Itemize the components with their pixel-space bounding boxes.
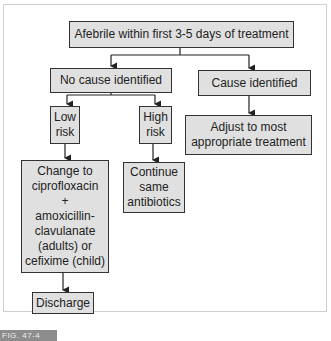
- high-risk-label: High risk: [143, 110, 168, 140]
- no-cause-label: No cause identified: [60, 73, 162, 88]
- cause-label: Cause identified: [211, 76, 297, 91]
- continue-label: Continue same antibiotics: [127, 165, 180, 210]
- figure-caption: FIG. 47-4: [0, 330, 57, 341]
- cause-box: Cause identified: [198, 70, 311, 96]
- adjust-label: Adjust to most appropriate treatment: [191, 120, 306, 150]
- discharge-label: Discharge: [36, 296, 90, 311]
- low-risk-label: Low risk: [54, 110, 76, 140]
- low-risk-box: Low risk: [50, 106, 80, 144]
- root-label: Afebrile within first 3-5 days of treatm…: [74, 27, 288, 42]
- discharge-box: Discharge: [32, 292, 94, 314]
- continue-box: Continue same antibiotics: [123, 162, 185, 213]
- no-cause-box: No cause identified: [50, 68, 172, 93]
- adjust-box: Adjust to most appropriate treatment: [185, 115, 312, 155]
- high-risk-box: High risk: [139, 106, 172, 144]
- change-label: Change to ciprofloxacin + amoxicillin- c…: [25, 164, 105, 269]
- root-box: Afebrile within first 3-5 days of treatm…: [69, 21, 294, 48]
- change-box: Change to ciprofloxacin + amoxicillin- c…: [21, 160, 109, 273]
